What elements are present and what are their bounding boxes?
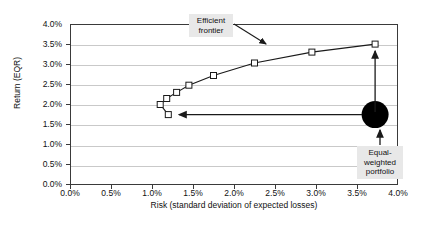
annotation-line: Equal-: [361, 148, 399, 158]
annotation-efficient-frontier: Efficient frontier: [189, 14, 233, 37]
gridline: [71, 105, 397, 106]
gridline: [71, 146, 397, 147]
gridline: [71, 85, 397, 86]
y-axis-tick-label: 3.0%: [26, 60, 62, 69]
x-axis-tick-label: 1.0%: [132, 189, 172, 198]
y-axis-tick-mark: [66, 124, 70, 125]
y-axis-tick-mark: [66, 64, 70, 65]
x-axis-tick-label: 4.0%: [378, 189, 418, 198]
y-axis-tick-label: 4.0%: [26, 20, 62, 29]
y-axis-tick-label: 0.5%: [26, 160, 62, 169]
y-axis-tick-label: 1.0%: [26, 140, 62, 149]
y-axis-tick-label: 1.5%: [26, 120, 62, 129]
y-axis-tick-mark: [66, 84, 70, 85]
annotation-line: Efficient: [193, 16, 229, 26]
x-axis-tick-label: 3.5%: [337, 189, 377, 198]
x-axis-tick-label: 0.5%: [91, 189, 131, 198]
x-axis-title: Risk (standard deviation of expected los…: [70, 200, 398, 210]
x-axis-tick-label: 3.0%: [296, 189, 336, 198]
annotation-line: frontier: [193, 26, 229, 36]
plot-area: [70, 24, 398, 185]
y-axis-tick-label: 3.5%: [26, 40, 62, 49]
y-axis-tick-label: 2.5%: [26, 80, 62, 89]
x-axis-tick-label: 2.0%: [214, 189, 254, 198]
y-axis-tick-mark: [66, 44, 70, 45]
gridline: [71, 65, 397, 66]
gridline: [71, 45, 397, 46]
x-axis-tick-label: 2.5%: [255, 189, 295, 198]
annotation-line: weighted: [361, 158, 399, 168]
gridline: [71, 125, 397, 126]
y-axis-tick-mark: [66, 104, 70, 105]
y-axis-tick-mark: [66, 164, 70, 165]
y-axis-title: Return (EQR): [12, 28, 22, 138]
gridline: [71, 166, 397, 167]
x-axis-tick-label: 0.0%: [50, 189, 90, 198]
y-axis-tick-label: 2.0%: [26, 100, 62, 109]
y-axis-tick-mark: [66, 144, 70, 145]
annotation-equal-weighted-portfolio: Equal- weighted portfolio: [357, 146, 403, 179]
x-axis-tick-label: 1.5%: [173, 189, 213, 198]
chart-container: 4.0% 3.5% 3.0% 2.5% 2.0% 1.5% 1.0% 0.5% …: [0, 0, 434, 228]
y-axis-tick-label: 0.0%: [26, 180, 62, 189]
annotation-line: portfolio: [361, 167, 399, 177]
